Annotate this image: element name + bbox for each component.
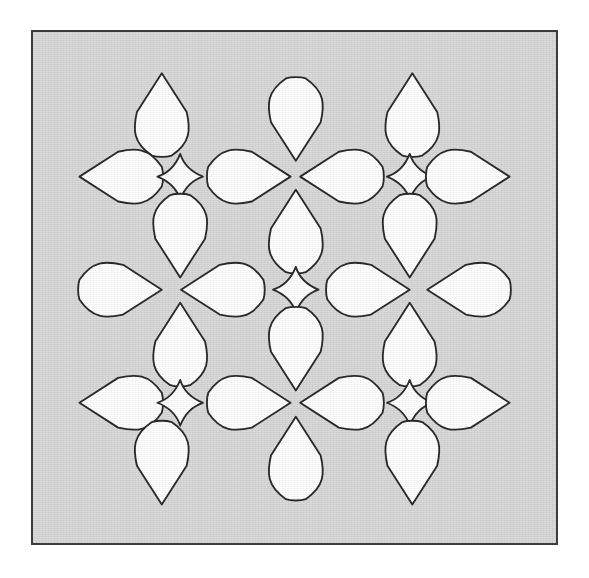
teardrop-shape	[300, 150, 384, 204]
teardrop-shape	[383, 194, 437, 278]
teardrop-shape	[135, 73, 189, 157]
teardrop-shape	[326, 263, 410, 317]
diamond-shape	[273, 267, 319, 313]
teardrop-shape	[78, 263, 162, 317]
teardrop-shape	[383, 303, 437, 387]
teardrop-shape	[79, 150, 163, 204]
teardrop-shape	[385, 73, 439, 157]
diamond-shape	[157, 154, 203, 200]
teardrop-shape	[426, 376, 510, 430]
teardrop-shape	[269, 77, 323, 161]
teardrop-shape	[269, 190, 323, 274]
teardrop-shape	[207, 150, 291, 204]
teardrop-shape	[385, 421, 439, 505]
teardrop-shape	[269, 417, 323, 501]
teardrop-shape	[153, 303, 207, 387]
teardrop-shape	[153, 194, 207, 278]
teardrop-shape	[300, 376, 384, 430]
teardrop-shape	[269, 307, 323, 391]
teardrop-shape	[426, 150, 510, 204]
teardrop-shape	[181, 263, 265, 317]
diamond-shape	[157, 380, 203, 426]
teardrop-shape	[427, 263, 511, 317]
shape-layer	[78, 73, 511, 504]
page-root	[0, 0, 589, 578]
pattern-canvas	[33, 32, 556, 543]
teardrop-shape	[135, 421, 189, 505]
teardrop-shape	[79, 376, 163, 430]
pattern-panel	[31, 30, 558, 545]
teardrop-shape	[207, 376, 291, 430]
